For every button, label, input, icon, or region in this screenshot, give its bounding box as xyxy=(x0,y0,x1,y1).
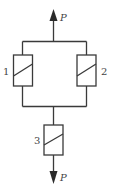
arrow-down-icon xyxy=(50,171,58,184)
element-2-label: 2 xyxy=(101,66,107,77)
bottom-load-label: P xyxy=(59,172,67,183)
element-3 xyxy=(44,125,63,155)
element-1 xyxy=(14,55,33,86)
arrow-up-icon xyxy=(50,9,58,21)
top-load-label: P xyxy=(59,12,67,23)
bottom-load-arrow xyxy=(50,155,58,184)
element-1-label: 1 xyxy=(3,66,9,77)
top-load-arrow xyxy=(50,9,58,42)
element-2 xyxy=(77,55,96,86)
parallel-series-diagram: P 1 2 3 P xyxy=(0,0,114,191)
element-3-label: 3 xyxy=(34,135,40,146)
